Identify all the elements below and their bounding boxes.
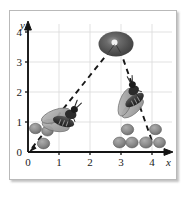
coordinate-plot [0,0,189,198]
pebble [121,124,133,135]
pebble [140,137,153,148]
y-tick-1: 1 [8,117,22,128]
y-tick-2: 2 [8,87,22,98]
figure-container: y x 4 3 2 1 0 0 1 2 3 4 [0,0,189,198]
x-axis-label: x [166,157,171,168]
y-tick-4: 4 [8,27,22,38]
x-tick-1: 1 [52,157,66,168]
pebble [37,138,49,149]
flower-icon [99,32,134,57]
pebble [30,123,42,133]
x-tick-4: 4 [145,157,159,168]
x-tick-3: 3 [114,157,128,168]
x-tick-0: 0 [21,157,35,168]
pebble [113,137,125,148]
bee-right [109,74,156,126]
pebble [154,137,166,147]
pebble [126,137,138,148]
pebble [150,124,162,134]
y-tick-0: 0 [8,147,22,158]
y-tick-3: 3 [8,57,22,68]
x-tick-2: 2 [83,157,97,168]
